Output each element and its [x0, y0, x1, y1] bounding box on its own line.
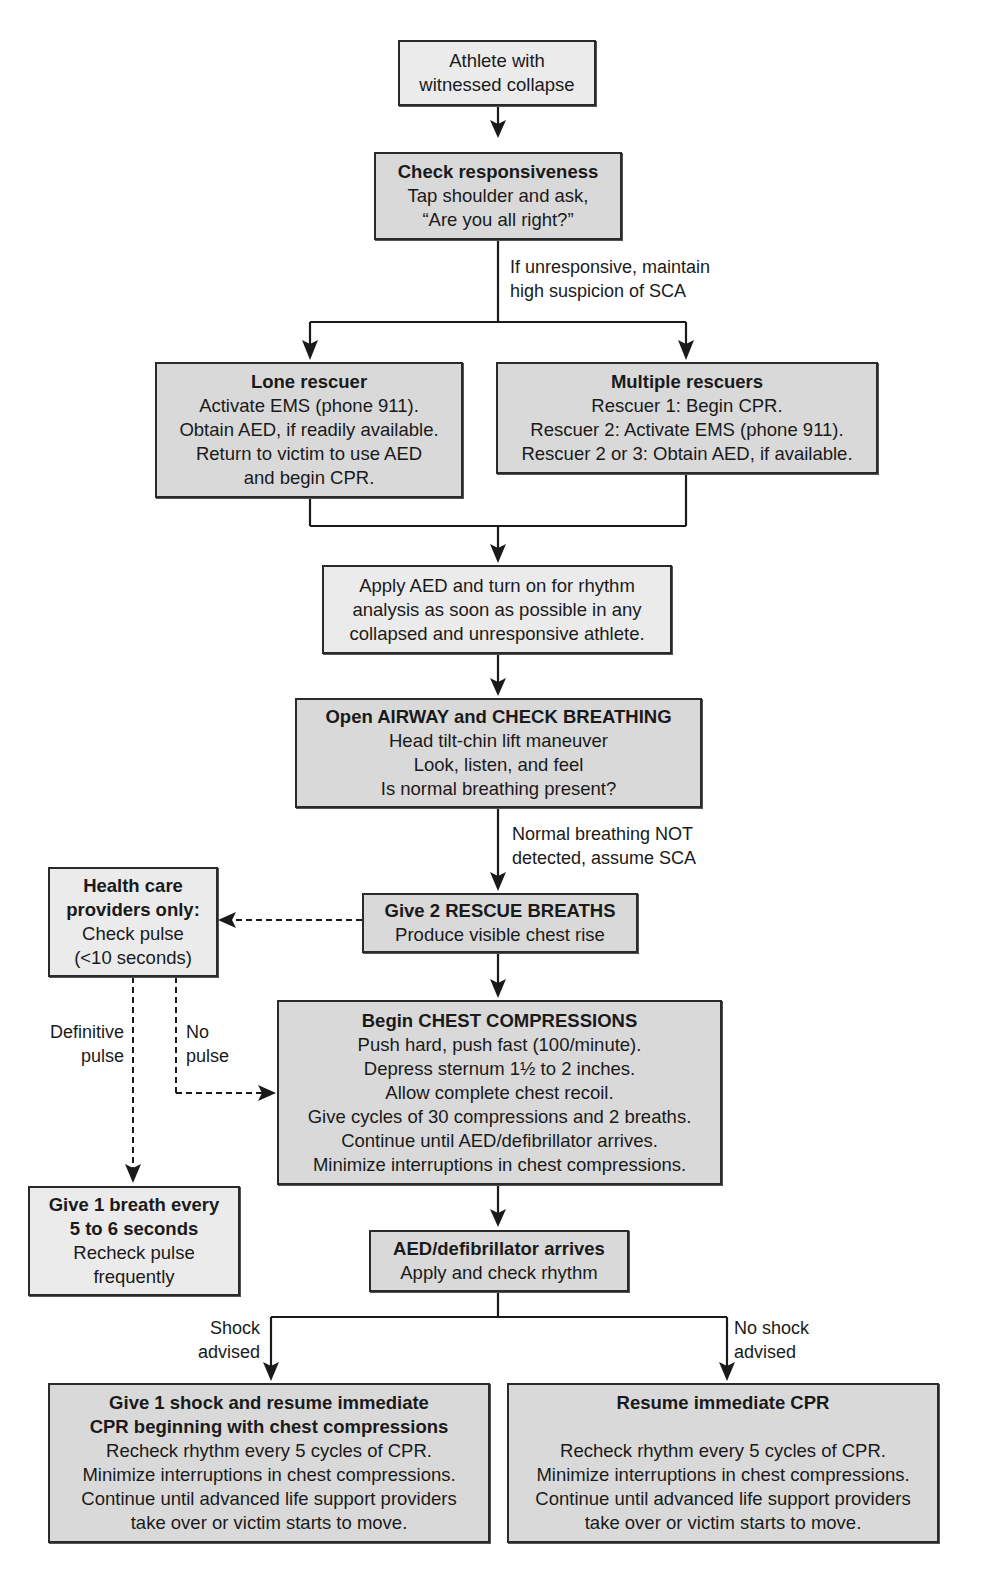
node-resume-cpr: Resume immediate CPR Recheck rhythm ever…	[507, 1383, 939, 1543]
node-lone-rescuer: Lone rescuer Activate EMS (phone 911). O…	[155, 362, 463, 498]
node-check-responsiveness: Check responsiveness Tap shoulder and as…	[374, 152, 622, 240]
node-title: Lone rescuer	[161, 370, 457, 394]
edge-label-not-breathing: Normal breathing NOT detected, assume SC…	[512, 822, 696, 870]
node-open-airway: Open AIRWAY and CHECK BREATHING Head til…	[295, 698, 702, 808]
edge-label-unresponsive: If unresponsive, maintain high suspicion…	[510, 255, 710, 303]
node-title: Multiple rescuers	[502, 370, 872, 394]
spacer	[513, 1415, 933, 1439]
node-aed-arrives: AED/defibrillator arrives Apply and chec…	[369, 1230, 629, 1292]
edge-label-no-pulse: No pulse	[186, 1020, 229, 1068]
node-text: Tap shoulder and ask,	[380, 184, 616, 208]
node-title: Give 2 RESCUE BREATHS	[368, 899, 632, 923]
node-give-shock: Give 1 shock and resume immediate CPR be…	[48, 1383, 490, 1543]
edge-label-definitive-pulse: Definitive pulse	[36, 1020, 124, 1068]
node-apply-aed: Apply AED and turn on for rhythm analysi…	[322, 565, 672, 654]
node-text: “Are you all right?”	[380, 208, 616, 232]
node-rescue-breaths: Give 2 RESCUE BREATHS Produce visible ch…	[362, 893, 638, 953]
node-text: Athlete with	[404, 49, 590, 73]
edge-label-shock-advised: Shock advised	[190, 1316, 260, 1364]
node-title: Check responsiveness	[380, 160, 616, 184]
node-health-care-providers: Health care providers only: Check pulse …	[48, 867, 218, 977]
node-multiple-rescuers: Multiple rescuers Rescuer 1: Begin CPR. …	[496, 362, 878, 474]
node-title: Resume immediate CPR	[513, 1391, 933, 1415]
node-chest-compressions: Begin CHEST COMPRESSIONS Push hard, push…	[277, 1000, 722, 1185]
node-title: Begin CHEST COMPRESSIONS	[283, 1009, 716, 1033]
node-title: AED/defibrillator arrives	[375, 1237, 623, 1261]
node-give-one-breath: Give 1 breath every 5 to 6 seconds Reche…	[28, 1186, 240, 1296]
node-text: witnessed collapse	[404, 73, 590, 97]
node-title: Open AIRWAY and CHECK BREATHING	[301, 705, 696, 729]
edge-label-no-shock-advised: No shock advised	[734, 1316, 809, 1364]
node-athlete-collapse: Athlete with witnessed collapse	[398, 40, 596, 106]
